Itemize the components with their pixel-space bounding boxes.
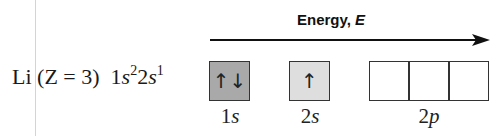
orbital-box-2p-3 (449, 61, 489, 101)
label-n: 2 (301, 104, 312, 128)
atomic-number: (Z = 3) (37, 64, 100, 89)
orbital-label-2s: 2s (285, 104, 335, 129)
label-l: s (311, 104, 319, 128)
label-l: p (429, 104, 440, 128)
config-l: s (122, 64, 131, 89)
label-n: 2 (419, 104, 430, 128)
electron-spin-pair-icon: ↑↓ (213, 69, 247, 93)
label-n: 1 (221, 104, 232, 128)
config-electrons: 1 (157, 63, 164, 78)
energy-arrow-icon (208, 32, 492, 48)
electron-configuration: Li (Z = 3) 1s22s1 (12, 64, 164, 90)
label-l: s (231, 104, 239, 128)
energy-variable: E (355, 11, 365, 28)
orbital-box-2s: ↑ (289, 61, 330, 101)
orbital-label-2p: 2p (404, 104, 454, 129)
energy-axis-label: Energy, E (297, 11, 365, 28)
element-symbol: Li (12, 64, 32, 89)
orbital-box-1s: ↑↓ (209, 61, 250, 101)
orbital-box-2p-1 (369, 61, 409, 101)
config-n: 1 (111, 64, 122, 89)
config-term-2s: 2s1 (137, 64, 164, 89)
config-l: s (148, 64, 157, 89)
energy-label-text: Energy, (297, 11, 355, 28)
orbital-box-2p-2 (409, 61, 450, 101)
electron-spin-up-icon: ↑ (301, 69, 318, 93)
orbital-label-1s: 1s (205, 104, 255, 129)
config-n: 2 (137, 64, 148, 89)
config-term-1s: 1s2 (111, 64, 138, 89)
